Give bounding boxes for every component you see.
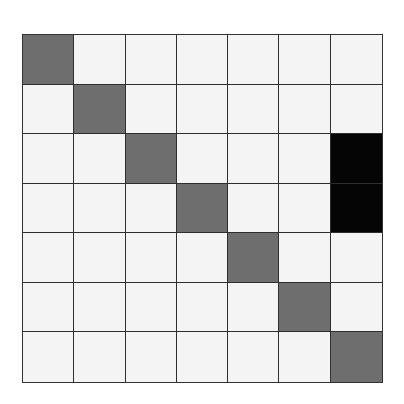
grid-cell-gray bbox=[228, 233, 279, 283]
grid-cell-empty bbox=[126, 283, 177, 333]
grid-cell-empty bbox=[279, 85, 330, 135]
grid-cell-gray bbox=[126, 134, 177, 184]
grid-cell-empty bbox=[331, 35, 382, 85]
grid-diagram bbox=[22, 34, 383, 383]
grid-cell-empty bbox=[23, 85, 74, 135]
grid-cell-empty bbox=[23, 184, 74, 234]
grid-cell-empty bbox=[177, 35, 228, 85]
grid-cell-empty bbox=[279, 332, 330, 382]
grid-cell-empty bbox=[126, 85, 177, 135]
grid-cell-empty bbox=[126, 332, 177, 382]
grid-cell-empty bbox=[279, 184, 330, 234]
grid-cell-empty bbox=[228, 85, 279, 135]
grid-cell-empty bbox=[23, 332, 74, 382]
grid-cell-empty bbox=[228, 283, 279, 333]
grid-cell-empty bbox=[177, 134, 228, 184]
grid-cell-gray bbox=[23, 35, 74, 85]
grid-cell-empty bbox=[126, 35, 177, 85]
grid-cell-empty bbox=[23, 233, 74, 283]
grid-cell-empty bbox=[228, 332, 279, 382]
grid-cell-empty bbox=[228, 35, 279, 85]
grid-cell-empty bbox=[177, 233, 228, 283]
grid-cell-gray bbox=[279, 283, 330, 333]
grid-cell-gray bbox=[177, 184, 228, 234]
grid-cell-empty bbox=[74, 184, 125, 234]
grid-cell-empty bbox=[74, 233, 125, 283]
grid-cell-empty bbox=[331, 283, 382, 333]
grid-cell-empty bbox=[331, 85, 382, 135]
grid-cell-empty bbox=[74, 35, 125, 85]
grid-cell-black bbox=[331, 184, 382, 234]
grid-cell-empty bbox=[23, 134, 74, 184]
grid-cell-black bbox=[331, 134, 382, 184]
grid-cell-empty bbox=[74, 134, 125, 184]
grid-cell-empty bbox=[126, 233, 177, 283]
grid-cell-empty bbox=[177, 85, 228, 135]
grid-cell-empty bbox=[23, 283, 74, 333]
grid-cell-empty bbox=[228, 134, 279, 184]
grid-cell-empty bbox=[331, 233, 382, 283]
grid-cell-empty bbox=[74, 283, 125, 333]
grid-cell-empty bbox=[177, 283, 228, 333]
grid-cell-empty bbox=[177, 332, 228, 382]
grid-cell-empty bbox=[279, 233, 330, 283]
grid-cell-empty bbox=[228, 184, 279, 234]
grid-cell-empty bbox=[279, 134, 330, 184]
grid-cell-gray bbox=[74, 85, 125, 135]
grid-cell-empty bbox=[126, 184, 177, 234]
grid-cell-empty bbox=[74, 332, 125, 382]
grid-cell-empty bbox=[279, 35, 330, 85]
grid-cell-gray bbox=[331, 332, 382, 382]
